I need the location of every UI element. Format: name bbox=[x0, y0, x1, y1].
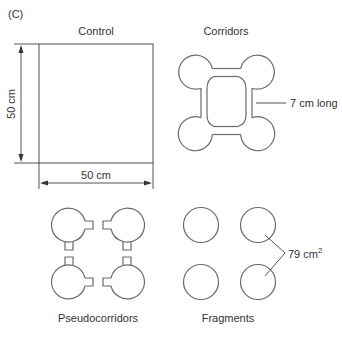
arrow-up-icon bbox=[19, 45, 24, 53]
height-dimension: 50 cm bbox=[5, 44, 39, 163]
area-leader-line bbox=[265, 235, 285, 276]
fragments-title: Fragments bbox=[202, 312, 255, 324]
pseudocorridors-title: Pseudocorridors bbox=[58, 312, 139, 324]
panel-label: (C) bbox=[8, 8, 23, 20]
experimental-design-diagram: (C) Control 50 cm 50 cm Corridors bbox=[0, 0, 342, 338]
arrow-left-icon bbox=[40, 181, 48, 186]
control-square bbox=[39, 44, 153, 163]
height-label: 50 cm bbox=[5, 89, 17, 119]
pseudocorridors-shape bbox=[52, 208, 145, 299]
corridor-length-label: 7 cm long bbox=[290, 97, 338, 109]
corridors-title: Corridors bbox=[203, 25, 249, 37]
width-dimension: 50 cm bbox=[39, 163, 153, 189]
control-panel: Control 50 cm 50 cm bbox=[5, 25, 153, 189]
fragment-circle bbox=[184, 208, 219, 243]
width-label: 50 cm bbox=[81, 169, 111, 181]
fragment-area-label: 79 cm2 bbox=[288, 246, 323, 260]
arrow-right-icon bbox=[144, 181, 152, 186]
control-title: Control bbox=[78, 25, 113, 37]
fragments-panel: 79 cm2 Fragments bbox=[184, 208, 323, 325]
fragment-circle bbox=[241, 208, 276, 243]
corridors-panel: Corridors 7 c bbox=[178, 25, 337, 151]
fragment-circle bbox=[184, 265, 219, 300]
arrow-down-icon bbox=[19, 154, 24, 162]
pseudocorridors-panel: Pseudocorridors bbox=[52, 208, 145, 324]
